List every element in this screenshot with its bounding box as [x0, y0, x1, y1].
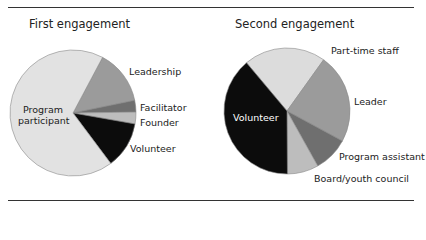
label-program-line2: participant [18, 115, 68, 126]
label-volunteer-first: Volunteer [130, 143, 176, 154]
label-founder: Founder [140, 117, 179, 128]
label-part-time-staff: Part-time staff [331, 45, 399, 56]
label-program-assistant: Program assistant [339, 151, 425, 162]
label-leadership: Leadership [129, 66, 181, 77]
label-volunteer-second: Volunteer [233, 112, 279, 123]
label-program-line1: Program [18, 104, 68, 115]
label-board-youth-council: Board/youth council [314, 173, 409, 184]
label-program-participant: Program participant [18, 104, 68, 126]
label-leader: Leader [354, 96, 387, 107]
label-facilitator: Facilitator [140, 102, 187, 113]
